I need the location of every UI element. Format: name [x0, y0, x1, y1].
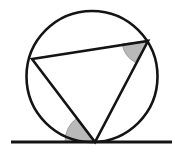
geometry-canvas: [0, 0, 175, 154]
geometry-figure: [0, 0, 175, 154]
